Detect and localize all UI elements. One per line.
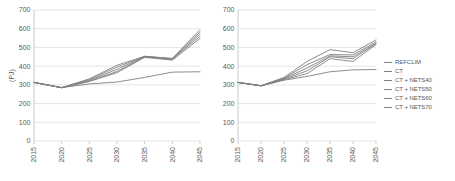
- x-tick-label: 2015: [234, 147, 241, 163]
- x-tick-label-group: 2045: [196, 147, 203, 163]
- x-tick-label-group: 2030: [113, 147, 120, 163]
- right-chart-plot: 0100200300400500600700201520202025203020…: [210, 0, 390, 181]
- left-chart-plot: 0100200300400500600700201520202025203020…: [0, 0, 215, 181]
- series-line: [34, 72, 200, 88]
- x-tick-label: 2035: [326, 147, 333, 163]
- legend-line-icon: [384, 71, 392, 72]
- x-tick-label-group: 2015: [30, 147, 37, 163]
- y-tick-label: 100: [19, 119, 31, 126]
- y-tick-label: 500: [19, 44, 31, 51]
- x-tick-label: 2030: [303, 147, 310, 163]
- x-tick-label: 2025: [86, 147, 93, 163]
- legend-line-icon: [384, 89, 392, 90]
- legend-item-label: REFCLIM: [395, 59, 421, 65]
- series-line: [238, 42, 376, 86]
- x-tick-label-group: 2020: [257, 147, 264, 163]
- legend-item-label: CT + NETS40: [395, 77, 432, 83]
- x-tick-label: 2020: [58, 147, 65, 163]
- legend-line-icon: [384, 62, 392, 63]
- x-tick-label-group: 2030: [303, 147, 310, 163]
- x-tick-label-group: 2035: [326, 147, 333, 163]
- series-line: [34, 36, 200, 87]
- legend-item[interactable]: CT + NETS50: [384, 85, 455, 93]
- y-tick-label: 400: [223, 63, 235, 70]
- y-tick-label: 300: [223, 81, 235, 88]
- x-tick-label: 2040: [169, 147, 176, 163]
- y-axis-title: (PJ): [8, 69, 16, 82]
- y-tick-label: 200: [223, 100, 235, 107]
- legend-item[interactable]: CT + NETS70: [384, 103, 455, 111]
- y-tick-label: 100: [223, 119, 235, 126]
- x-tick-label-group: 2040: [349, 147, 356, 163]
- y-tick-label: 600: [19, 25, 31, 32]
- legend-item-label: CT + NETS70: [395, 104, 432, 110]
- x-tick-label: 2015: [30, 147, 37, 163]
- y-tick-label: 400: [19, 63, 31, 70]
- series-line: [34, 34, 200, 88]
- y-tick-label: 0: [231, 137, 235, 144]
- legend-item[interactable]: REFCLIM: [384, 58, 455, 66]
- legend-item-label: CT + NETS50: [395, 86, 432, 92]
- x-tick-label-group: 2035: [141, 147, 148, 163]
- x-tick-label: 2040: [349, 147, 356, 163]
- legend-line-icon: [384, 80, 392, 81]
- legend-item-label: CT: [395, 68, 403, 74]
- x-tick-label: 2045: [372, 147, 379, 163]
- x-tick-label-group: 2015: [234, 147, 241, 163]
- series-line: [34, 38, 200, 87]
- series-line: [34, 30, 200, 88]
- x-tick-label-group: 2025: [86, 147, 93, 163]
- y-tick-label: 500: [223, 44, 235, 51]
- chart-panel-right: 0100200300400500600700201520202025203020…: [210, 0, 390, 181]
- y-axis-title-group: (PJ): [8, 69, 16, 82]
- legend-line-icon: [384, 98, 392, 99]
- y-tick-label: 700: [19, 6, 31, 13]
- series-line: [238, 40, 376, 86]
- legend-item-label: CT + NETS60: [395, 95, 432, 101]
- chart-legend: REFCLIM CT CT + NETS40 CT + NETS50 CT + …: [384, 58, 455, 111]
- x-tick-label-group: 2045: [372, 147, 379, 163]
- legend-item[interactable]: CT + NETS40: [384, 76, 455, 84]
- x-tick-label-group: 2040: [169, 147, 176, 163]
- x-tick-label-group: 2025: [280, 147, 287, 163]
- legend-item[interactable]: CT: [384, 67, 455, 75]
- legend-item[interactable]: CT + NETS60: [384, 94, 455, 102]
- chart-figure: 0100200300400500600700201520202025203020…: [0, 0, 455, 181]
- x-tick-label: 2035: [141, 147, 148, 163]
- x-tick-label-group: 2020: [58, 147, 65, 163]
- y-tick-label: 600: [223, 25, 235, 32]
- y-tick-label: 700: [223, 6, 235, 13]
- series-line: [34, 32, 200, 88]
- series-line: [238, 70, 376, 86]
- series-line: [238, 45, 376, 86]
- y-tick-label: 0: [27, 137, 31, 144]
- x-tick-label: 2020: [257, 147, 264, 163]
- y-tick-label: 300: [19, 81, 31, 88]
- x-tick-label: 2025: [280, 147, 287, 163]
- chart-panel-left: 0100200300400500600700201520202025203020…: [0, 0, 215, 181]
- y-tick-label: 200: [19, 100, 31, 107]
- legend-line-icon: [384, 107, 392, 108]
- x-tick-label: 2030: [113, 147, 120, 163]
- x-tick-label: 2045: [196, 147, 203, 163]
